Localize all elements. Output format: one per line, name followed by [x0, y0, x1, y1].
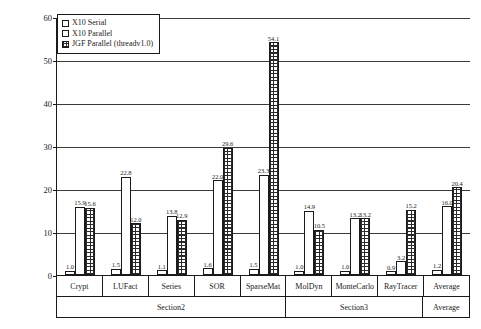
- bar-value-label: 10.5: [314, 223, 325, 230]
- y-axis-title: Speedup w.r.t. JGF serial (v2.0): [0, 0, 8, 71]
- bar-wrapper: 14.9: [304, 211, 314, 275]
- bar-value-label: 1.5: [249, 262, 257, 269]
- x-axis-category-label: Average: [424, 276, 470, 297]
- bar-value-label: 54.1: [268, 36, 279, 43]
- bar-wrapper: 22.8: [121, 177, 131, 275]
- bar: 15.2: [406, 210, 416, 275]
- bar-wrapper: 54.1: [269, 42, 279, 275]
- bar-value-label: 1.0: [295, 264, 303, 271]
- legend-label-x10-serial: X10 Serial: [72, 18, 106, 29]
- bar-group: 1.015.915.6: [57, 18, 103, 275]
- bar: 1.6: [203, 268, 213, 275]
- legend: X10 Serial X10 Parallel JGF Parallel (th…: [57, 14, 160, 54]
- legend-item-x10-serial: X10 Serial: [62, 18, 153, 29]
- bar-wrapper: 22.0: [213, 180, 223, 275]
- x-axis-section-label: Section3: [286, 297, 424, 318]
- bar-wrapper: 10.5: [314, 230, 324, 275]
- bar-wrapper: 1.2: [432, 270, 442, 275]
- bar-wrapper: 1.0: [294, 271, 304, 275]
- bar: 22.8: [121, 177, 131, 275]
- x-axis-category-label: SOR: [195, 276, 241, 297]
- bar-value-label: 23.3: [258, 168, 269, 175]
- bar-value-label: 1.5: [112, 262, 120, 269]
- bar-value-label: 1.0: [66, 264, 74, 271]
- y-tick-label: 60: [44, 14, 58, 23]
- bar-wrapper: 3.2: [396, 261, 406, 275]
- bar-value-label: 22.0: [212, 174, 223, 181]
- y-tick-label: 30: [44, 143, 58, 152]
- y-tick-label: 20: [44, 186, 58, 195]
- bar: 1.1: [157, 270, 167, 275]
- bar-wrapper: 15.2: [406, 210, 416, 275]
- bar-group: 1.216.020.4: [424, 18, 470, 275]
- bar-value-label: 1.1: [158, 264, 166, 271]
- bar-group: 1.523.354.1: [241, 18, 287, 275]
- bar-wrapper: 13.2: [350, 218, 360, 275]
- bar-wrapper: 1.0: [340, 271, 350, 275]
- bar: 23.3: [259, 175, 269, 275]
- bar-value-label: 22.8: [120, 170, 131, 177]
- legend-swatch-icon-x10-parallel: [62, 30, 69, 37]
- x-axis-category-label: SparseMat: [241, 276, 287, 297]
- bar: 13.8: [167, 216, 177, 275]
- x-axis-category-label: MonteCarlo: [332, 276, 378, 297]
- legend-label-jgf-parallel: JGF Parallel (threadv1.0): [72, 39, 153, 50]
- x-axis-category-label: LUFact: [103, 276, 149, 297]
- bar: 1.0: [340, 271, 350, 275]
- bar: 13.2: [360, 218, 370, 275]
- bars-layer: 1.015.915.61.522.812.01.113.812.91.622.0…: [57, 18, 470, 275]
- bar-wrapper: 12.9: [177, 220, 187, 275]
- y-tick-label: 40: [44, 100, 58, 109]
- bar: 15.9: [75, 207, 85, 275]
- x-axis-section-label: Average: [423, 297, 470, 318]
- bar: 0.9: [386, 271, 396, 275]
- x-axis-category-label: MolDyn: [286, 276, 332, 297]
- bar: 1.0: [294, 271, 304, 275]
- x-axis-section-label: Section2: [56, 297, 286, 318]
- bar: 54.1: [269, 42, 279, 275]
- bar-group: 1.522.812.0: [103, 18, 149, 275]
- bar-wrapper: 0.9: [386, 271, 396, 275]
- legend-item-x10-parallel: X10 Parallel: [62, 29, 153, 40]
- bar-wrapper: 15.6: [85, 208, 95, 275]
- bar-wrapper: 23.3: [259, 175, 269, 275]
- bar-wrapper: 1.1: [157, 270, 167, 275]
- bar-value-label: 29.6: [222, 141, 233, 148]
- bar: 12.9: [177, 220, 187, 275]
- bar: 16.0: [442, 206, 452, 275]
- x-axis-section-row: Section2Section3Average: [56, 297, 470, 318]
- bar-group: 1.113.812.9: [149, 18, 195, 275]
- bar: 10.5: [314, 230, 324, 275]
- bar: 14.9: [304, 211, 314, 275]
- bar-value-label: 15.6: [84, 201, 95, 208]
- speedup-bar-chart: Speedup w.r.t. JGF serial (v2.0) 0102030…: [0, 0, 481, 329]
- y-tick-label: 50: [44, 57, 58, 66]
- bar-wrapper: 1.5: [111, 269, 121, 275]
- bar: 29.6: [223, 148, 233, 275]
- y-tick-label: 10: [44, 229, 58, 238]
- legend-item-jgf-parallel: JGF Parallel (threadv1.0): [62, 39, 153, 50]
- bar-wrapper: 13.2: [360, 218, 370, 275]
- bar-value-label: 16.0: [441, 200, 452, 207]
- x-axis-category-label: Series: [149, 276, 195, 297]
- bar: 1.5: [249, 269, 259, 275]
- bar: 13.2: [350, 218, 360, 275]
- x-axis-category-label: RayTracer: [378, 276, 424, 297]
- bar-wrapper: 16.0: [442, 206, 452, 275]
- x-axis-category-row: CryptLUFactSeriesSORSparseMatMolDynMonte…: [56, 276, 470, 297]
- bar: 15.6: [85, 208, 95, 275]
- bar: 1.0: [65, 271, 75, 275]
- bar-value-label: 15.2: [405, 203, 416, 210]
- bar-wrapper: 1.5: [249, 269, 259, 275]
- bar-value-label: 12.9: [176, 213, 187, 220]
- bar: 1.2: [432, 270, 442, 275]
- bar-value-label: 1.0: [341, 264, 349, 271]
- bar: 1.5: [111, 269, 121, 275]
- bar-wrapper: 15.9: [75, 207, 85, 275]
- bar-value-label: 0.9: [387, 265, 395, 272]
- x-axis-category-label: Crypt: [56, 276, 103, 297]
- bar-value-label: 1.2: [433, 263, 441, 270]
- bar-wrapper: 1.6: [203, 268, 213, 275]
- bar-wrapper: 29.6: [223, 148, 233, 275]
- bar-value-label: 1.6: [204, 262, 212, 269]
